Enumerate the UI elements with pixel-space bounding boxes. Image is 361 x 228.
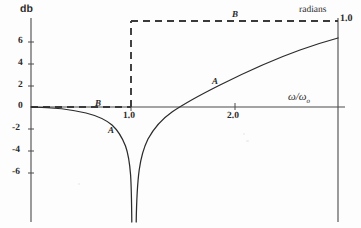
scan-speck — [243, 133, 245, 135]
curve-label-A-right: A — [212, 77, 218, 86]
x-tick-label-1: 1.0 — [123, 112, 135, 122]
y-tick-label-neg6: -6 — [12, 168, 20, 178]
curve-label-B-left: B — [95, 99, 101, 108]
y-tick-label-4: 4 — [18, 59, 23, 69]
x-tick-label-2: 2.0 — [227, 112, 239, 122]
x-axis-title-omega-ratio: ω/ω — [288, 91, 307, 103]
scan-speck — [78, 183, 80, 185]
curve-label-A-left: A — [108, 126, 114, 135]
figure-notch-filter-response: db radians 1.0 6 4 2 0 -2 -4 -6 1.0 2.0 … — [0, 0, 361, 228]
scan-speck — [246, 140, 249, 142]
y-tick-label-0: 0 — [18, 102, 23, 112]
plot-canvas — [0, 0, 361, 228]
y-tick-label-neg2: -2 — [12, 124, 20, 134]
y-axis-right-title: radians — [299, 6, 326, 16]
y-axis-right-top-value: 1.0 — [340, 14, 353, 24]
y-axis-left-title: db — [20, 4, 33, 15]
paper-background — [0, 0, 361, 228]
y-tick-label-6: 6 — [18, 37, 23, 47]
x-axis-title-subscript: o — [307, 97, 311, 105]
y-tick-label-neg4: -4 — [12, 146, 20, 156]
y-tick-label-2: 2 — [18, 81, 23, 91]
x-axis-title: ω/ωo — [288, 92, 310, 105]
curve-label-B-top: B — [232, 10, 238, 19]
